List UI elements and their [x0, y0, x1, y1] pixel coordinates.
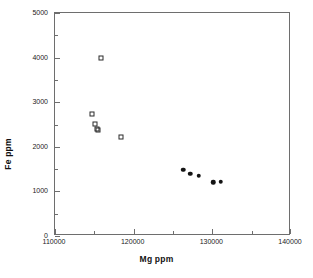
data-point-filled-circles [188, 171, 193, 176]
y-tick-major [55, 147, 60, 148]
scatter-chart: Fe ppm 010002000300040005000 11000012000… [0, 0, 313, 278]
y-tick-minor [55, 125, 58, 126]
data-point-filled-circles [197, 174, 202, 179]
y-tick-label: 1000 [32, 187, 48, 194]
y-tick-minor [55, 80, 58, 81]
y-tick-major [55, 191, 60, 192]
y-tick-major [55, 58, 60, 59]
data-point-open-squares [99, 56, 104, 61]
data-point-open-squares [89, 111, 94, 116]
x-axis-tick-labels: 110000120000130000140000 [54, 238, 290, 252]
x-tick-major [55, 229, 56, 234]
data-point-filled-circles [211, 180, 216, 185]
data-point-filled-circles [219, 180, 224, 185]
y-tick-minor [55, 169, 58, 170]
x-tick-minor [173, 231, 174, 234]
x-tick-label: 120000 [121, 238, 144, 245]
y-tick-minor [55, 214, 58, 215]
y-tick-label: 2000 [32, 142, 48, 149]
y-tick-label: 5000 [32, 9, 48, 16]
data-point-open-squares [96, 128, 101, 133]
x-tick-label: 130000 [200, 238, 223, 245]
x-tick-major [290, 229, 291, 234]
x-axis-title: Mg ppm [0, 254, 313, 264]
data-point-open-squares [119, 135, 124, 140]
y-axis-tick-labels: 010002000300040005000 [0, 12, 51, 235]
plot-area [54, 12, 290, 235]
data-point-open-squares [93, 121, 98, 126]
data-point-filled-circles [181, 168, 186, 173]
x-tick-label: 140000 [278, 238, 301, 245]
y-tick-label: 4000 [32, 53, 48, 60]
x-tick-label: 110000 [43, 238, 66, 245]
x-tick-minor [94, 231, 95, 234]
y-tick-label: 3000 [32, 98, 48, 105]
y-tick-major [55, 13, 60, 14]
y-tick-major [55, 236, 60, 237]
x-tick-major [134, 229, 135, 234]
y-tick-major [55, 102, 60, 103]
x-tick-minor [252, 231, 253, 234]
y-tick-minor [55, 35, 58, 36]
x-tick-major [212, 229, 213, 234]
